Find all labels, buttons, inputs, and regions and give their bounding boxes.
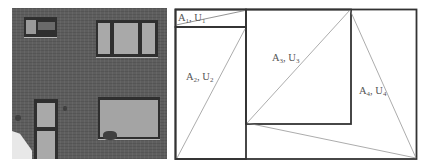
region-3-diagonal — [247, 10, 350, 123]
region-1-label: A1, U1 — [178, 12, 206, 25]
region-4-label: A4, U4 — [359, 85, 387, 98]
region-3-label: A3, U3 — [272, 52, 300, 65]
region-2-diagonal — [177, 29, 245, 158]
region-4-edge-right — [350, 10, 416, 158]
partition-diagram: A1, U1 A2, U2 A3, U3 A4, U4 — [0, 0, 428, 167]
region-2-label: A2, U2 — [186, 71, 214, 84]
region-4-edge-bottom — [247, 123, 416, 158]
